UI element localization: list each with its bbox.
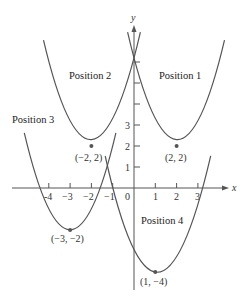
x-tick-label: 1 [153,191,158,202]
position-1-label: Position 1 [159,70,201,81]
y-axis-arrow-icon [132,25,137,32]
x-axis-arrow-icon [222,186,229,191]
y-tick-label: 1 [125,162,130,173]
x-tick-label: −1 [104,191,115,202]
x-axis-label: x [231,182,237,193]
position-2-label: Position 2 [69,70,111,81]
x-tick-label: −2 [83,191,94,202]
x-ticks: -4 −3 −2 −1 0 1 2 3 [44,183,200,202]
vertex-label-position-1: (2, 2) [165,152,187,164]
vertex-label-position-2: (−2, 2) [75,152,102,164]
vertex-dot-position-3 [68,228,72,232]
position-4-label: Position 4 [141,215,184,226]
y-axis-label: y [130,12,136,23]
vertex-label-position-4: (1, −4) [140,276,167,288]
position-3-label: Position 3 [12,114,54,125]
y-ticks: 1 2 3 [125,62,140,173]
parabola-position-3 [24,133,116,230]
y-tick-label: 3 [125,120,130,131]
parabola-position-1 [128,32,225,139]
vertex-dot-position-4 [153,270,157,274]
y-tick-label: 2 [125,141,130,152]
x-tick-label: 0 [125,191,130,202]
vertex-label-position-3: (−3, −2) [51,233,84,245]
parabola-diagram: x y -4 −3 −2 −1 0 1 2 3 1 2 3 [0,0,247,296]
x-tick-label: −3 [62,191,73,202]
vertices [68,144,179,274]
vertex-dot-position-2 [89,144,93,148]
x-tick-label: 2 [174,191,179,202]
vertex-dot-position-1 [175,144,179,148]
